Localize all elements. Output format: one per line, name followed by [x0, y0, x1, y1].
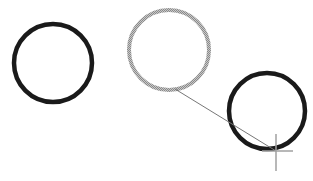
circle-right[interactable] [229, 73, 305, 149]
crosshair-cursor-icon [262, 134, 293, 171]
drag-guide-line [175, 89, 276, 151]
circle-middle-ghost[interactable] [129, 10, 209, 90]
circle-left[interactable] [14, 24, 92, 102]
drawing-canvas[interactable] [0, 0, 313, 181]
